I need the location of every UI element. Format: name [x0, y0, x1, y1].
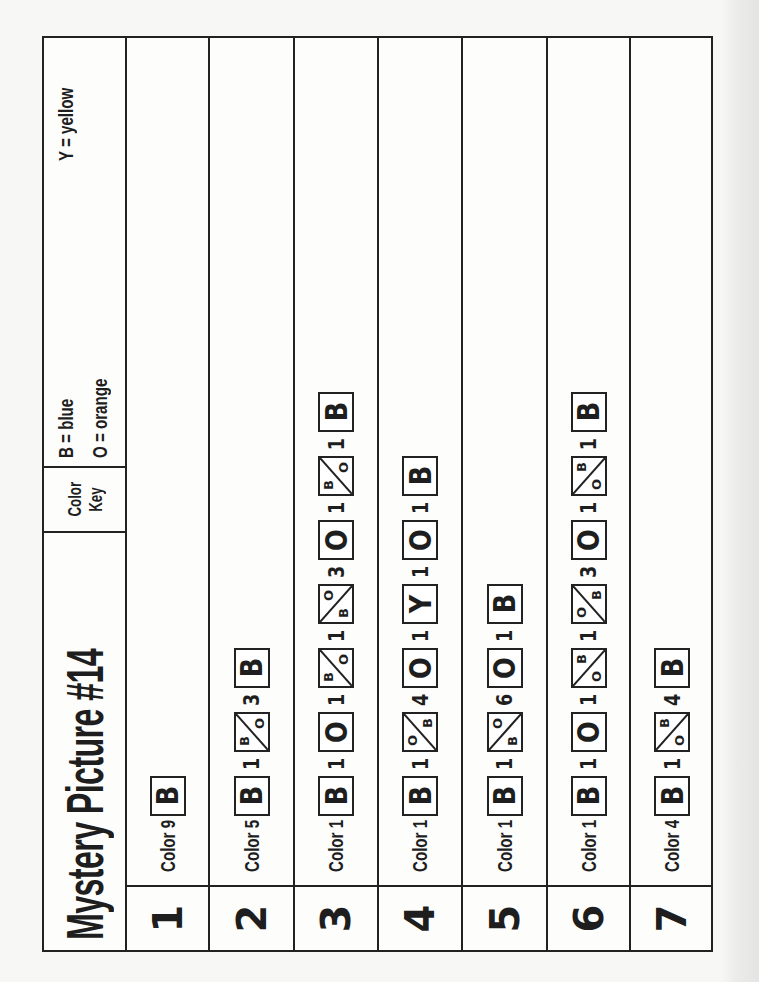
worksheet-frame: Mystery Picture #14 Color Key B = blue O…	[42, 36, 713, 952]
row-start-label: Color 9	[156, 837, 180, 872]
split-upper-code: B	[321, 672, 336, 682]
color-box-b[interactable]: B	[571, 392, 607, 432]
split-upper-code: O	[574, 607, 589, 618]
split-color-box[interactable]: BO	[571, 456, 607, 496]
split-upper-code: B	[657, 718, 672, 728]
row-number: 7	[631, 885, 713, 950]
row-start-label: Color 1	[408, 837, 432, 872]
split-lower-code: B	[336, 608, 351, 618]
color-code: B	[403, 786, 438, 805]
puzzle-row-3: 3Color 1B1O1BO1OB3O1BO1B	[295, 38, 379, 950]
color-box-o[interactable]: O	[402, 648, 438, 688]
color-box-b[interactable]: B	[318, 776, 354, 816]
color-box-o[interactable]: O	[487, 648, 523, 688]
skip-count: 1	[576, 434, 601, 453]
color-code: B	[319, 786, 354, 805]
color-key-label-cell: Color Key	[44, 466, 125, 531]
skip-count: 1	[576, 498, 601, 517]
color-key-blue: B = blue	[54, 399, 78, 458]
skip-count: 1	[576, 690, 601, 709]
color-code: O	[487, 657, 522, 679]
color-box-b[interactable]: B	[234, 648, 270, 688]
title-cell: Mystery Picture #14	[44, 531, 125, 950]
skip-count: 6	[492, 690, 517, 709]
skip-count: 1	[408, 498, 433, 517]
row-start-label: Color 1	[493, 837, 517, 872]
color-box-o[interactable]: O	[318, 712, 354, 752]
color-code: O	[319, 721, 354, 743]
color-box-b[interactable]: B	[402, 776, 438, 816]
color-code: B	[655, 658, 690, 677]
split-lower-code: B	[420, 718, 435, 728]
split-color-box[interactable]: BO	[318, 648, 354, 688]
color-code: Y	[403, 595, 438, 613]
color-key-yellow: Y = yellow	[54, 88, 78, 161]
color-box-o[interactable]: O	[402, 520, 438, 560]
color-box-b[interactable]: B	[318, 392, 354, 432]
color-code: B	[487, 594, 522, 613]
color-code: O	[403, 657, 438, 679]
color-box-b[interactable]: B	[487, 584, 523, 624]
skip-count: 1	[408, 754, 433, 773]
color-box-o[interactable]: O	[318, 520, 354, 560]
row-sequence: Color 1B1O1BO1OB3O1BO1B	[548, 392, 629, 872]
split-lower-code: O	[336, 654, 351, 665]
color-code: B	[571, 402, 606, 421]
split-upper-code: B	[237, 736, 252, 746]
split-upper-code: O	[321, 590, 336, 601]
color-box-o[interactable]: O	[571, 520, 607, 560]
color-key-values: B = blue O = orange Y = yellow	[44, 38, 125, 466]
split-color-box[interactable]: BO	[571, 648, 607, 688]
color-box-b[interactable]: B	[654, 648, 690, 688]
skip-count: 3	[576, 562, 601, 581]
skip-count: 1	[324, 498, 349, 517]
puzzle-row-4: 4Color 1B1OB4O1Y1O1B	[379, 38, 463, 950]
row-number: 2	[210, 885, 293, 950]
puzzle-row-1: 1Color 9B	[127, 38, 210, 950]
split-color-box[interactable]: OB	[318, 584, 354, 624]
skip-count: 1	[324, 690, 349, 709]
color-box-y[interactable]: Y	[402, 584, 438, 624]
split-lower-code: B	[505, 736, 520, 746]
split-color-box[interactable]: OB	[571, 584, 607, 624]
row-sequence: Color 1B1OB6O1B	[463, 584, 546, 872]
color-code: B	[319, 402, 354, 421]
split-upper-code: B	[574, 654, 589, 664]
row-start-label: Color 1	[324, 837, 348, 872]
color-code: O	[571, 529, 606, 551]
split-upper-code: B	[321, 480, 336, 490]
split-color-box[interactable]: OB	[402, 712, 438, 752]
color-box-b[interactable]: B	[654, 776, 690, 816]
row-number: 4	[379, 885, 461, 950]
skip-count: 3	[239, 690, 264, 709]
color-box-b[interactable]: B	[402, 456, 438, 496]
row-number: 3	[295, 885, 377, 950]
split-lower-code: O	[589, 671, 604, 682]
skip-count: 1	[492, 626, 517, 645]
skip-count: 3	[324, 562, 349, 581]
row-sequence: Color 1B1O1BO1OB3O1BO1B	[295, 392, 377, 872]
color-box-b[interactable]: B	[234, 776, 270, 816]
split-lower-code: B	[589, 590, 604, 600]
color-key-label-line2: Key	[85, 487, 106, 511]
split-color-box[interactable]: BO	[234, 712, 270, 752]
color-box-b[interactable]: B	[571, 776, 607, 816]
puzzle-row-2: 2Color 5B1BO3B	[210, 38, 295, 950]
split-lower-code: O	[589, 479, 604, 490]
color-box-o[interactable]: O	[571, 712, 607, 752]
skip-count: 1	[408, 626, 433, 645]
row-number: 6	[548, 885, 629, 950]
color-key-label-line1: Color	[64, 482, 85, 517]
color-box-b[interactable]: B	[150, 776, 186, 816]
skip-count: 1	[324, 626, 349, 645]
skip-count: 4	[408, 690, 433, 709]
split-color-box[interactable]: BO	[654, 712, 690, 752]
color-box-b[interactable]: B	[487, 776, 523, 816]
row-sequence: Color 1B1OB4O1Y1O1B	[379, 456, 461, 872]
split-color-box[interactable]: BO	[318, 456, 354, 496]
split-color-box[interactable]: OB	[487, 712, 523, 752]
skip-count: 1	[492, 754, 517, 773]
skip-count: 1	[324, 754, 349, 773]
split-lower-code: O	[252, 718, 267, 729]
skip-count: 4	[660, 690, 685, 709]
